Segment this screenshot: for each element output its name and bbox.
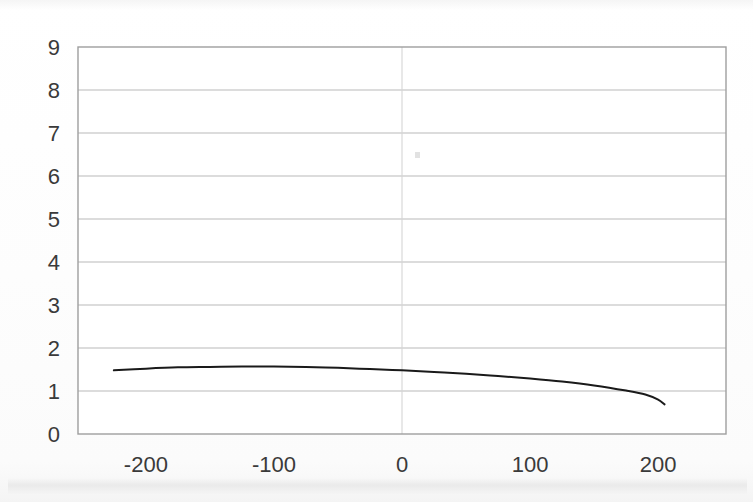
y-tick-label-8: 8 [48, 78, 60, 103]
y-tick-label-4: 4 [48, 250, 60, 275]
y-tick-label-2: 2 [48, 336, 60, 361]
y-tick-label-0: 0 [48, 422, 60, 447]
y-tick-label-3: 3 [48, 293, 60, 318]
x-tick-label-200: 200 [640, 452, 677, 477]
x-tick-label-100: 100 [512, 452, 549, 477]
x-tick-label--100: -100 [252, 452, 296, 477]
y-tick-label-6: 6 [48, 164, 60, 189]
x-tick-label--200: -200 [124, 452, 168, 477]
chart-figure: 0123456789 -200-1000100200 [0, 0, 753, 502]
line-chart: 0123456789 -200-1000100200 [0, 0, 753, 502]
x-tick-label-0: 0 [396, 452, 408, 477]
y-tick-label-9: 9 [48, 35, 60, 60]
x-axis-tick-labels: -200-1000100200 [124, 452, 677, 477]
y-tick-label-7: 7 [48, 121, 60, 146]
y-axis-tick-labels: 0123456789 [48, 35, 60, 447]
y-tick-label-1: 1 [48, 379, 60, 404]
y-tick-label-5: 5 [48, 207, 60, 232]
